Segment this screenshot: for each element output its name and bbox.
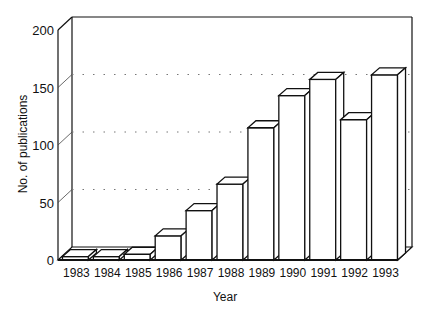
x-tick-label: 1988 <box>218 266 245 280</box>
bar-1986 <box>155 229 189 260</box>
bar-1989 <box>248 121 282 260</box>
y-tick-labels: 050100150200 <box>32 23 54 268</box>
bar-chart-3d: 050100150200 198319841985198619871988198… <box>0 0 430 319</box>
bar-1987 <box>186 204 220 260</box>
bar-1993 <box>372 68 406 260</box>
x-tick-label: 1984 <box>94 266 121 280</box>
bar-side-face <box>398 68 406 260</box>
bars <box>58 68 406 260</box>
y-tick-label: 100 <box>32 138 54 153</box>
x-tick-label: 1983 <box>63 266 90 280</box>
x-tick-label: 1985 <box>125 266 152 280</box>
y-tick-label: 200 <box>32 23 54 38</box>
x-tick-labels: 1983198419851986198719881989199019911992… <box>63 266 399 280</box>
bar-front-face <box>310 79 336 260</box>
gridline-side-tick <box>58 190 72 203</box>
bar-front-face <box>248 128 274 260</box>
gridline-side-tick <box>58 75 72 88</box>
y-axis-label: No. of publications <box>16 95 30 194</box>
x-tick-label: 1991 <box>310 266 337 280</box>
y-tick-label: 0 <box>47 253 54 268</box>
x-tick-label: 1992 <box>341 266 368 280</box>
x-axis-label: Year <box>213 290 237 304</box>
bar-front-face <box>279 96 305 260</box>
x-tick-label: 1993 <box>372 266 399 280</box>
bar-front-face <box>186 211 212 260</box>
x-tick-label: 1987 <box>187 266 214 280</box>
x-tick-label: 1990 <box>279 266 306 280</box>
bar-1985 <box>124 247 158 260</box>
bar-front-face <box>341 120 367 260</box>
x-tick-label: 1989 <box>249 266 276 280</box>
bar-1991 <box>310 72 344 260</box>
bar-1990 <box>279 89 313 260</box>
y-tick-label: 150 <box>32 81 54 96</box>
bar-front-face <box>155 236 181 260</box>
y-tick-label: 50 <box>40 196 54 211</box>
gridline-side-tick <box>58 132 72 145</box>
wall-top-left-edge <box>58 17 72 30</box>
bar-1992 <box>341 113 375 260</box>
bar-front-face <box>217 184 243 260</box>
bar-1988 <box>217 177 251 260</box>
bar-front-face <box>372 75 398 260</box>
x-tick-label: 1986 <box>156 266 183 280</box>
